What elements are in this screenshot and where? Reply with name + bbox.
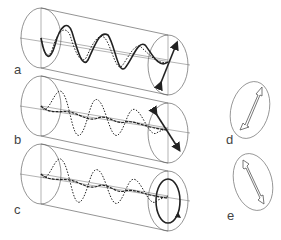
panel-a-cylinder: a [14, 8, 190, 95]
label-b: b [14, 132, 21, 147]
double-arrow-e-icon [243, 160, 264, 204]
wave-b-dashed [41, 106, 168, 130]
polarization-diagram: a b c d e [0, 0, 281, 240]
wave-c-dashed [41, 174, 168, 198]
double-arrow-d-icon [240, 87, 262, 130]
panel-b-cylinder: b [14, 76, 190, 163]
panel-c-cylinder: c [14, 144, 190, 231]
rotation-arrowhead [175, 212, 181, 218]
label-c: c [14, 202, 21, 217]
polarization-arrow-b [155, 112, 178, 148]
panel-d-ellipse: d [224, 77, 276, 147]
label-e: e [227, 208, 234, 223]
label-a: a [14, 62, 22, 77]
label-d: d [226, 132, 233, 147]
panel-e-ellipse: e [227, 149, 279, 223]
